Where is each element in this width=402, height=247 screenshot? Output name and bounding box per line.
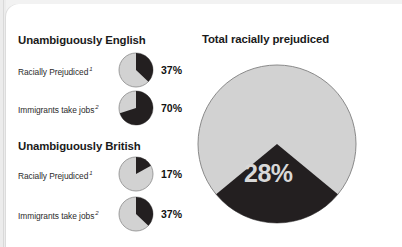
row-value-british-immigrants: 37%: [161, 208, 182, 220]
total-percent-label: 28%: [244, 159, 293, 188]
row-label-british-prejudiced: Racially Prejudiced1: [18, 170, 93, 181]
pie-british-prejudiced: [118, 156, 154, 196]
group-heading-british: Unambiguously British: [18, 140, 141, 152]
row-footnote-marker: 1: [88, 66, 92, 72]
row-label-english-immigrants: Immigrants take jobs2: [18, 104, 99, 115]
row-label-text: Racially Prejudiced: [18, 67, 88, 77]
pie-british-immigrants: [118, 196, 154, 236]
row-footnote-marker: 2: [94, 210, 98, 216]
row-label-english-prejudiced: Racially Prejudiced1: [18, 66, 93, 77]
row-label-british-immigrants: Immigrants take jobs2: [18, 210, 99, 221]
group-heading-english: Unambiguously English: [18, 34, 146, 46]
pie-total-racially-prejudiced: 28%: [197, 64, 357, 228]
pie-chart-icon: [118, 156, 154, 192]
total-chart-title: Total racially prejudiced: [202, 33, 329, 45]
row-footnote-marker: 2: [94, 104, 98, 110]
pie-chart-icon: [118, 196, 154, 232]
pie-chart-icon: [197, 64, 357, 224]
pie-chart-icon: [118, 52, 154, 88]
pie-chart-icon: [118, 90, 154, 126]
row-label-text: Racially Prejudiced: [18, 171, 88, 181]
row-label-text: Immigrants take jobs: [18, 211, 94, 221]
page-left-gutter-rule: [3, 0, 4, 247]
infographic-screen: Unambiguously English Racially Prejudice…: [0, 0, 402, 247]
row-value-english-immigrants: 70%: [161, 102, 182, 114]
pie-english-prejudiced: [118, 52, 154, 92]
row-footnote-marker: 1: [88, 170, 92, 176]
row-value-british-prejudiced: 17%: [161, 168, 182, 180]
row-label-text: Immigrants take jobs: [18, 105, 94, 115]
row-value-english-prejudiced: 37%: [161, 64, 182, 76]
pie-english-immigrants: [118, 90, 154, 130]
page-card: Unambiguously English Racially Prejudice…: [6, 4, 402, 247]
